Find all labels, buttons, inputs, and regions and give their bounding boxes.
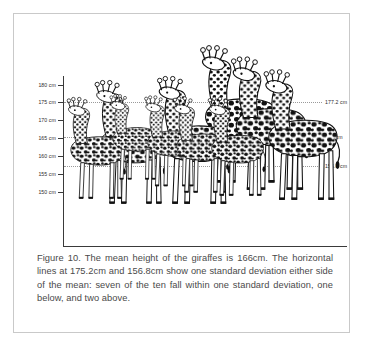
y-tick-label-175: 175 cm: [20, 99, 56, 105]
y-tick-label-160: 160 cm: [20, 153, 56, 159]
chart-plot-area: 180 cm 175 cm 170 cm 165 cm 160 cm 155 c…: [14, 14, 351, 238]
figure-caption: Figure 10. The mean height of the giraff…: [37, 252, 333, 306]
y-tick-label-170: 170 cm: [20, 117, 56, 123]
y-tick-label-180: 180 cm: [20, 82, 56, 88]
y-tick-label-150: 150 cm: [20, 189, 56, 195]
y-tick-label-165: 165 cm: [20, 135, 56, 141]
giraffe-herd-illustration: [63, 34, 347, 247]
y-tick-label-155: 155 cm: [20, 171, 56, 177]
figure-container: 180 cm 175 cm 170 cm 165 cm 160 cm 155 c…: [13, 13, 350, 333]
